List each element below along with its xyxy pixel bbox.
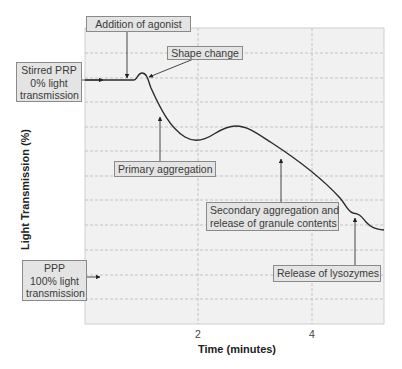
- stirred-prp-line2: 0% light: [20, 77, 78, 90]
- x-tick-2: 2: [195, 328, 201, 340]
- x-axis-title: Time (minutes): [198, 343, 276, 355]
- platelet-aggregation-diagram: Addition of agonist Shape change Stirred…: [0, 0, 402, 369]
- primary-aggregation-label: Primary aggregation: [114, 161, 216, 177]
- secondary-aggregation-line2: release of granule contents: [210, 217, 335, 230]
- secondary-aggregation-label: Secondary aggregation and release of gra…: [206, 202, 339, 231]
- release-of-lysozymes-label: Release of lysozymes: [273, 265, 381, 282]
- ppp-line3: transmission: [26, 287, 83, 300]
- shape-change-text: Shape change: [171, 47, 239, 59]
- stirred-prp-line1: Stirred PRP: [20, 64, 78, 77]
- primary-aggregation-text: Primary aggregation: [118, 163, 213, 175]
- y-axis-title: Light Transmission (%): [19, 129, 31, 250]
- addition-of-agonist-text: Addition of agonist: [95, 18, 181, 30]
- x-tick-4: 4: [309, 328, 315, 340]
- ppp-line2: 100% light: [26, 275, 83, 288]
- ppp-line1: PPP: [26, 262, 83, 275]
- stirred-prp-label: Stirred PRP 0% light transmission: [16, 62, 82, 102]
- stirred-prp-line3: transmission: [20, 89, 78, 102]
- ppp-label: PPP 100% light transmission: [22, 260, 87, 301]
- release-of-lysozymes-text: Release of lysozymes: [277, 267, 379, 279]
- secondary-aggregation-line1: Secondary aggregation and: [210, 204, 335, 217]
- addition-of-agonist-label: Addition of agonist: [86, 16, 191, 32]
- shape-change-label: Shape change: [167, 46, 243, 60]
